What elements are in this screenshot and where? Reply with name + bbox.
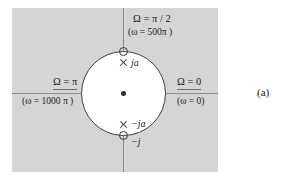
figure-root: Ω = π / 2 (ω = 500π ) Ω = π (ω = 1000 π … bbox=[0, 0, 293, 186]
origin-dot bbox=[121, 91, 126, 96]
zero-marker-upper bbox=[119, 47, 128, 56]
pole-marker-lower bbox=[119, 120, 128, 129]
label-omega-left: Ω = π bbox=[53, 76, 77, 90]
label-omega-right: Ω = 0 bbox=[177, 76, 201, 90]
label-analog-omega-top: (ω = 500π ) bbox=[128, 27, 172, 38]
label-omega-top: Ω = π / 2 bbox=[133, 13, 171, 25]
label-pole-upper: ja bbox=[131, 57, 139, 69]
figure-caption: (a) bbox=[257, 86, 269, 98]
label-analog-omega-right: (ω = 0) bbox=[177, 96, 204, 107]
pole-marker-upper bbox=[119, 58, 128, 67]
zero-marker-lower bbox=[119, 131, 128, 140]
label-pole-lower: −ja bbox=[131, 118, 146, 130]
label-zero-lower: −j bbox=[131, 136, 141, 148]
label-analog-omega-left: (ω = 1000 π ) bbox=[22, 96, 73, 107]
